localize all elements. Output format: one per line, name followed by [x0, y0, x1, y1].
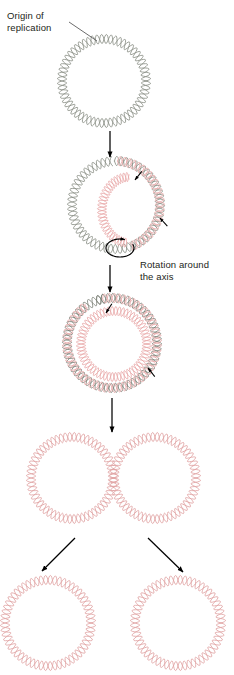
rotation-around-axis-label: Rotation around the axis — [140, 259, 209, 282]
replication-diagram — [0, 0, 234, 675]
dna-helix-layer — [1, 34, 226, 670]
origin-of-replication-label: Origin of replication — [7, 10, 51, 33]
